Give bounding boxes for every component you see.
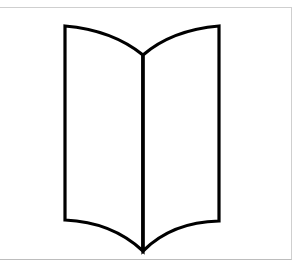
right-page xyxy=(143,26,219,251)
open-book-icon xyxy=(0,0,304,265)
left-page xyxy=(65,26,143,251)
